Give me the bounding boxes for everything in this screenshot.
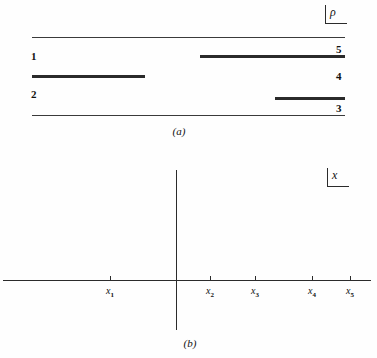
ticklabel-sub: 5 xyxy=(350,291,354,299)
panel-a-segment-3 xyxy=(275,97,345,100)
panel-b-tick-x5 xyxy=(350,276,351,281)
panel-b-tick-x1 xyxy=(110,276,111,281)
figure-container: ρ 5 1 4 2 3 (a) x xyxy=(0,0,377,358)
ticklabel-sub: 1 xyxy=(110,291,114,299)
x-axis-label: x xyxy=(332,169,337,181)
panel-a-top-rule xyxy=(32,37,345,38)
ticklabel-sub: 3 xyxy=(255,291,259,299)
panel-b-tick-x4 xyxy=(312,276,313,281)
panel-a-right-label-5: 5 xyxy=(336,44,342,55)
panel-b-ticklabel-x2: x2 xyxy=(206,286,214,299)
panel-a-left-label-1: 1 xyxy=(31,51,37,62)
corner-bracket-vertical-icon xyxy=(325,5,326,24)
panel-b-caption: (b) xyxy=(184,338,197,349)
panel-a-caption: (a) xyxy=(173,126,186,137)
panel-b-vertical-axis xyxy=(176,170,177,330)
panel-a-left-label-2: 2 xyxy=(31,89,37,100)
corner-bracket-vertical-icon xyxy=(327,168,328,187)
panel-a-segment-4 xyxy=(32,75,145,78)
panel-a-right-label-3: 3 xyxy=(336,103,342,114)
panel-a-bottom-rule xyxy=(32,115,345,116)
panel-b-ticklabel-x1: x1 xyxy=(106,286,114,299)
corner-bracket-horizontal-icon xyxy=(327,186,349,187)
panel-b-horizontal-axis xyxy=(3,280,371,281)
panel-b-tick-x3 xyxy=(255,276,256,281)
rho-axis-label: ρ xyxy=(330,6,336,18)
x-axis-marker: x xyxy=(327,168,353,187)
ticklabel-sub: 4 xyxy=(312,291,316,299)
corner-bracket-horizontal-icon xyxy=(325,23,347,24)
panel-a-segment-5 xyxy=(200,55,345,58)
panel-a-right-label-4: 4 xyxy=(336,71,342,82)
panel-b-ticklabel-x4: x4 xyxy=(308,286,316,299)
panel-b-ticklabel-x3: x3 xyxy=(251,286,259,299)
panel-b-tick-x2 xyxy=(210,276,211,281)
rho-axis-marker: ρ xyxy=(325,5,351,24)
panel-b-ticklabel-x5: x5 xyxy=(346,286,354,299)
ticklabel-sub: 2 xyxy=(210,291,214,299)
